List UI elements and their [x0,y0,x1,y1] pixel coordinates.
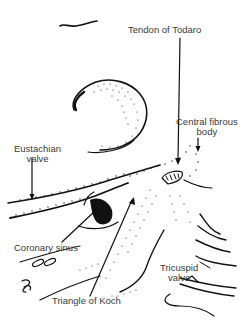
label-tricuspid-valve-line2: valve [160,273,198,283]
label-triangle-of-koch: Triangle of Koch [52,296,121,306]
label-central-fibrous-body-line2: body [176,127,238,137]
leader-lines [30,38,211,296]
eustachian-ridge [8,165,160,218]
lower-left-loops [22,257,56,292]
label-central-fibrous-body: Central fibrous body [176,117,238,137]
label-eustachian-valve-line2: valve [14,154,61,164]
anatomy-drawing [0,0,240,333]
label-coronary-sinus: Coronary sinus [14,243,78,253]
leader-tricuspid-valve [200,262,210,268]
leader-coronary-sinus [62,210,96,242]
label-eustachian-valve: Eustachian valve [14,144,61,164]
label-tendon-of-todaro: Tendon of Todaro [128,25,201,35]
leader-tendon-of-todaro [178,38,180,160]
label-tricuspid-valve: Tricuspid valve [160,263,198,283]
coronary-sinus-ostium [78,192,118,229]
top-left-stroke [60,21,97,26]
central-fibrous-body [129,145,212,188]
fossa-ovalis [73,80,147,152]
